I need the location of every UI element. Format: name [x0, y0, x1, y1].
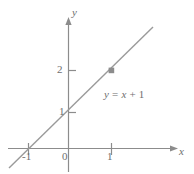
x-tick-label-negative-1: -1 — [22, 151, 31, 162]
x-axis-label: x — [179, 146, 184, 157]
y-tick-label-1: 1 — [59, 106, 65, 117]
origin-label: 0 — [62, 151, 68, 162]
point-marker-1-2 — [109, 68, 115, 74]
y-axis-arrowhead — [65, 17, 71, 25]
x-axis-arrowhead — [170, 145, 178, 151]
graph-figure: y x 2 1 -1 0 1 y = x + 1 — [0, 0, 194, 174]
equation-annotation: y = x + 1 — [104, 89, 145, 100]
y-axis-label: y — [72, 7, 77, 18]
x-tick-label-1: 1 — [107, 151, 113, 162]
y-tick-label-2: 2 — [57, 64, 63, 75]
coordinate-plot — [0, 0, 194, 174]
equation-equals-sign: = — [109, 88, 121, 100]
equation-constant-term: + 1 — [127, 88, 145, 100]
